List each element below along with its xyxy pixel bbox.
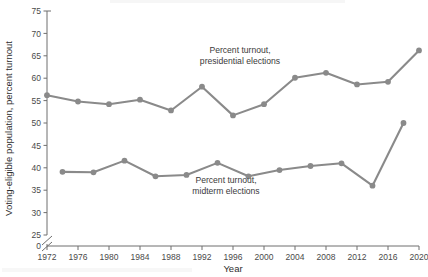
x-tick-label-2012: 2012 <box>348 252 367 262</box>
y-tick-label-50: 50 <box>32 118 42 128</box>
y-tick-label-60: 60 <box>32 73 42 83</box>
data-point-midterm-2010: Percent turnout, midterm elections — 201… <box>339 160 345 166</box>
data-point-midterm-2006: Percent turnout, midterm elections — 200… <box>308 163 314 169</box>
y-tick-label-65: 65 <box>32 51 42 61</box>
x-tick-label-2000: 2000 <box>255 252 274 262</box>
y-tick-label-35: 35 <box>32 185 42 195</box>
data-point-midterm-2014: Percent turnout, midterm elections — 201… <box>370 183 376 189</box>
data-point-midterm-1994: Percent turnout, midterm elections — 199… <box>215 160 221 166</box>
data-point-midterm-1978: Percent turnout, midterm elections — 197… <box>91 169 97 175</box>
y-axis-title: Voting-eligible population, percent turn… <box>3 41 14 216</box>
data-point-presidential-2008: Percent turnout, presidential elections … <box>323 70 329 76</box>
data-point-presidential-1996: Percent turnout, presidential elections … <box>230 112 236 118</box>
x-tick-label-2020: 2020 <box>410 252 428 262</box>
cropped-title-strip <box>110 0 345 3</box>
x-tick-label-1980: 1980 <box>100 252 119 262</box>
x-tick-label-1976: 1976 <box>69 252 88 262</box>
data-point-presidential-1976: Percent turnout, presidential elections … <box>75 99 81 105</box>
turnout-line-chart: 0253035404550556065707519721976198019841… <box>0 0 428 277</box>
data-point-presidential-1980: Percent turnout, presidential elections … <box>106 101 112 107</box>
data-point-presidential-2004: Percent turnout, presidential elections … <box>292 75 298 81</box>
midterm-label-line1: Percent turnout, <box>195 175 256 185</box>
y-tick-label-0: 0 <box>36 241 41 251</box>
data-point-midterm-1986: Percent turnout, midterm elections — 198… <box>153 173 159 179</box>
data-point-presidential-2012: Percent turnout, presidential elections … <box>354 82 360 88</box>
x-tick-label-2008: 2008 <box>317 252 336 262</box>
data-point-presidential-2000: Percent turnout, presidential elections … <box>261 101 267 107</box>
y-tick-label-55: 55 <box>32 96 42 106</box>
y-tick-label-40: 40 <box>32 163 42 173</box>
x-tick-label-1972: 1972 <box>38 252 57 262</box>
presidential-label-line2: presidential elections <box>200 56 280 66</box>
data-point-presidential-1972: Percent turnout, presidential elections … <box>44 92 50 98</box>
x-tick-label-2016: 2016 <box>379 252 398 262</box>
x-tick-label-2004: 2004 <box>286 252 305 262</box>
x-axis-title: Year <box>223 263 242 274</box>
x-tick-label-1988: 1988 <box>162 252 181 262</box>
y-tick-label-25: 25 <box>32 230 42 240</box>
x-tick-label-1996: 1996 <box>224 252 243 262</box>
data-point-presidential-1984: Percent turnout, presidential elections … <box>137 97 143 103</box>
x-tick-label-1992: 1992 <box>193 252 212 262</box>
data-point-midterm-1982: Percent turnout, midterm elections — 198… <box>122 158 128 164</box>
data-point-presidential-2016: Percent turnout, presidential elections … <box>385 79 391 85</box>
data-point-midterm-2018: Percent turnout, midterm elections — 201… <box>401 120 407 126</box>
y-tick-label-70: 70 <box>32 29 42 39</box>
cropped-source-note-strip <box>2 268 192 272</box>
data-point-presidential-2020: Percent turnout, presidential elections … <box>416 48 422 54</box>
data-point-presidential-1988: Percent turnout, presidential elections … <box>168 108 174 114</box>
chart-canvas: 0253035404550556065707519721976198019841… <box>0 0 428 277</box>
data-point-presidential-1992: Percent turnout, presidential elections … <box>199 84 205 90</box>
data-point-midterm-1974: Percent turnout, midterm elections — 197… <box>60 169 66 175</box>
y-tick-label-30: 30 <box>32 208 42 218</box>
data-point-midterm-2002: Percent turnout, midterm elections — 200… <box>277 167 283 173</box>
midterm-label-line2: midterm elections <box>192 186 259 196</box>
y-tick-label-75: 75 <box>32 6 42 16</box>
x-tick-label-1984: 1984 <box>131 252 150 262</box>
y-tick-label-45: 45 <box>32 141 42 151</box>
presidential-label-line1: Percent turnout, <box>209 45 270 55</box>
data-point-midterm-1990: Percent turnout, midterm elections — 199… <box>184 172 190 178</box>
